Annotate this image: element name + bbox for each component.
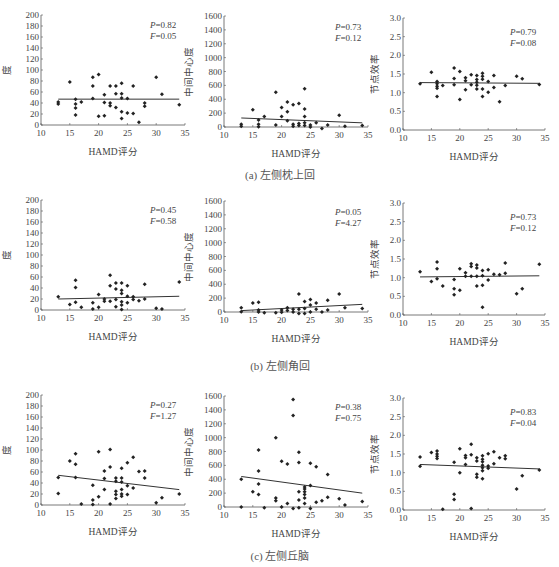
data-point bbox=[486, 278, 490, 282]
data-point bbox=[297, 101, 301, 105]
data-point bbox=[297, 490, 301, 494]
data-point bbox=[475, 73, 479, 77]
data-point bbox=[108, 299, 112, 303]
data-point bbox=[114, 493, 118, 497]
data-point bbox=[326, 298, 330, 302]
y-tick-label: 800 bbox=[209, 447, 223, 457]
x-tick-label: 10 bbox=[37, 128, 47, 138]
x-tick-label: 10 bbox=[220, 510, 230, 520]
data-point bbox=[469, 264, 473, 268]
data-point bbox=[120, 281, 124, 285]
y-tick-label: 1200 bbox=[204, 224, 223, 234]
data-point bbox=[308, 461, 312, 465]
data-point bbox=[492, 462, 496, 466]
data-point bbox=[97, 305, 101, 309]
data-point bbox=[458, 267, 462, 271]
x-tick-label: 10 bbox=[220, 130, 230, 140]
y-tick-label: 800 bbox=[209, 67, 223, 77]
data-point bbox=[486, 452, 490, 456]
data-point bbox=[452, 293, 456, 297]
data-point bbox=[56, 295, 60, 299]
data-point bbox=[481, 283, 485, 287]
data-points bbox=[418, 442, 541, 511]
data-point bbox=[120, 110, 124, 114]
data-point bbox=[435, 94, 439, 98]
x-axis-label: HAMD评分 bbox=[271, 149, 320, 159]
data-point bbox=[435, 267, 439, 271]
data-point bbox=[97, 293, 101, 297]
data-point bbox=[56, 491, 60, 495]
data-point bbox=[303, 107, 307, 111]
y-tick-label: 20 bbox=[30, 294, 40, 304]
data-point bbox=[503, 261, 507, 265]
y-tick-label: 2.0 bbox=[390, 235, 402, 245]
y-tick-label: 2.5 bbox=[390, 217, 402, 227]
data-points bbox=[418, 260, 541, 309]
data-point bbox=[303, 115, 307, 119]
data-point bbox=[131, 298, 135, 302]
y-tick-label: 160 bbox=[26, 412, 40, 422]
x-tick-label: 25 bbox=[484, 513, 494, 523]
y-tick-label: 1.0 bbox=[390, 273, 402, 283]
data-point bbox=[481, 305, 485, 309]
data-point bbox=[452, 278, 456, 282]
x-tick-label: 15 bbox=[427, 513, 437, 523]
p-value-annotation: P=0.73 bbox=[509, 212, 537, 222]
y-tick-label: 2.0 bbox=[390, 430, 402, 440]
data-point bbox=[452, 76, 456, 80]
y-tick-label: 60 bbox=[30, 87, 40, 97]
data-point bbox=[280, 310, 284, 314]
data-point bbox=[469, 442, 473, 446]
plot-b-betweenness: 0200400600800100012001400160010152025303… bbox=[180, 185, 380, 350]
data-point bbox=[469, 453, 473, 457]
data-point bbox=[120, 81, 124, 85]
data-point bbox=[326, 123, 330, 127]
data-point bbox=[343, 306, 347, 310]
y-tick-label: 1600 bbox=[204, 391, 223, 401]
data-point bbox=[91, 84, 95, 88]
data-points bbox=[56, 273, 181, 311]
data-point bbox=[441, 507, 445, 511]
data-point bbox=[303, 502, 307, 506]
x-axis-label: HAMD评分 bbox=[449, 152, 498, 162]
data-point bbox=[257, 448, 261, 452]
x-tick-label: 30 bbox=[335, 130, 345, 140]
data-point bbox=[297, 450, 301, 454]
x-tick-label: 20 bbox=[277, 510, 287, 520]
y-tick-label: 160 bbox=[26, 217, 40, 227]
data-point bbox=[257, 310, 261, 314]
data-point bbox=[137, 120, 141, 124]
x-tick-label: 25 bbox=[123, 313, 133, 323]
x-tick-label: 15 bbox=[248, 315, 257, 325]
y-tick-label: 0.5 bbox=[390, 486, 402, 496]
data-point bbox=[515, 487, 519, 491]
regression-line bbox=[420, 464, 539, 468]
data-point bbox=[74, 300, 78, 304]
x-tick-label: 15 bbox=[427, 133, 437, 143]
y-tick-label: 1.5 bbox=[390, 254, 402, 264]
data-point bbox=[102, 114, 106, 118]
caption-a: (a) 左侧枕上回 bbox=[180, 166, 380, 182]
data-point bbox=[297, 461, 301, 465]
data-point bbox=[418, 270, 422, 274]
y-tick-label: 100 bbox=[26, 445, 40, 455]
data-point bbox=[320, 499, 324, 503]
p-value-annotation: P=0.45 bbox=[149, 205, 177, 215]
data-point bbox=[137, 299, 141, 303]
data-point bbox=[74, 476, 78, 480]
data-point bbox=[481, 94, 485, 98]
data-point bbox=[79, 100, 83, 104]
y-tick-label: 80 bbox=[30, 261, 40, 271]
data-point bbox=[120, 303, 124, 307]
x-tick-label: 25 bbox=[306, 510, 316, 520]
p-value-annotation: P=0.27 bbox=[149, 400, 177, 410]
data-point bbox=[125, 461, 129, 465]
x-tick-label: 25 bbox=[123, 508, 133, 518]
data-point bbox=[326, 308, 330, 312]
data-point bbox=[486, 268, 490, 272]
data-point bbox=[297, 506, 301, 510]
x-tick-label: 20 bbox=[455, 133, 465, 143]
y-tick-label: 100 bbox=[26, 65, 40, 75]
data-point bbox=[97, 495, 101, 499]
data-point bbox=[143, 282, 147, 286]
